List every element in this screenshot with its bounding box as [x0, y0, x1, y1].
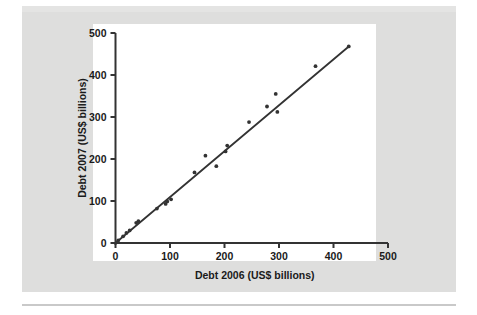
data-point	[247, 120, 251, 124]
footer-divider	[22, 304, 456, 306]
x-axis-tick-label: 400	[325, 250, 343, 262]
data-point	[214, 164, 218, 168]
data-point	[136, 219, 140, 223]
y-axis-tick-label: 200	[89, 153, 107, 165]
data-point	[165, 200, 169, 204]
y-axis-title: Debt 2007 (US$ billions)	[76, 78, 88, 198]
data-point	[121, 234, 125, 238]
y-axis-tick-label: 400	[89, 69, 107, 81]
trend-line	[116, 46, 349, 243]
x-axis-title: Debt 2006 (US$ billions)	[195, 269, 315, 281]
y-axis-tick-label: 300	[89, 111, 107, 123]
data-point	[225, 144, 229, 148]
data-point	[155, 207, 159, 211]
y-axis-tick-label: 0	[101, 237, 107, 249]
data-point	[224, 150, 228, 154]
scatter-chart: 01002003004005000100200300400500Debt 200…	[0, 0, 477, 315]
data-point	[128, 229, 132, 233]
x-axis-tick-label: 100	[161, 250, 179, 262]
x-axis-tick-label: 0	[113, 250, 119, 262]
data-point	[193, 171, 197, 175]
data-point	[125, 231, 129, 235]
data-point	[347, 45, 351, 49]
y-axis-tick-label: 500	[89, 27, 107, 39]
data-point	[116, 239, 120, 243]
data-point	[314, 64, 318, 68]
data-point	[169, 197, 173, 201]
trend-line-segment	[116, 46, 349, 243]
data-point	[204, 154, 208, 158]
data-point	[274, 92, 278, 96]
y-axis-tick-label: 100	[89, 195, 107, 207]
x-axis-tick-label: 500	[379, 250, 397, 262]
axes-group	[111, 33, 389, 248]
x-axis-tick-label: 300	[270, 250, 288, 262]
data-point	[265, 105, 269, 109]
figure-root: 01002003004005000100200300400500Debt 200…	[0, 0, 477, 315]
x-axis-tick-label: 200	[216, 250, 234, 262]
data-point	[275, 110, 279, 114]
